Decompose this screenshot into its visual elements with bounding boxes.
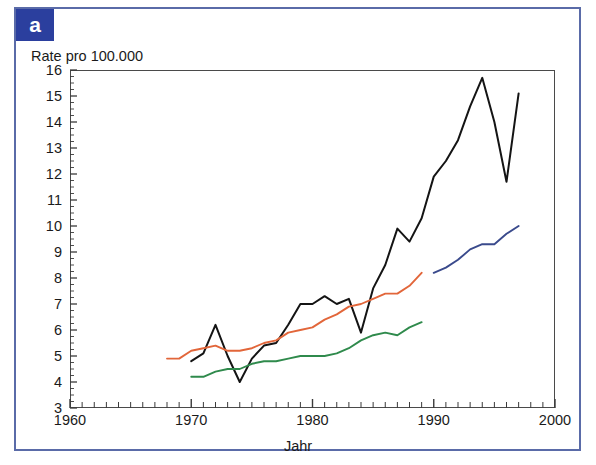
x-axis-tick-label: 1990: [418, 412, 450, 428]
y-axis-tick-label: 4: [28, 374, 62, 390]
y-axis-tick-label: 7: [28, 296, 62, 312]
plot-area: [70, 70, 555, 408]
y-axis-tick-label: 10: [28, 218, 62, 234]
y-axis-tick-label: 6: [28, 322, 62, 338]
x-axis-tick-label: 2000: [539, 412, 571, 428]
y-axis-tick-label: 8: [28, 270, 62, 286]
y-axis-tick-label: 5: [28, 348, 62, 364]
y-axis-tick-label: 9: [28, 244, 62, 260]
x-axis-tick-label: 1960: [54, 412, 86, 428]
x-axis-label: Jahr: [0, 438, 596, 454]
x-axis-tick-label: 1980: [296, 412, 328, 428]
figure-root: a Rate pro 100.000 345678910111213141516…: [0, 0, 596, 465]
y-axis-tick-label: 11: [28, 192, 62, 208]
y-axis-tick-label: 12: [28, 166, 62, 182]
panel-badge: a: [16, 9, 54, 41]
x-axis-tick-label: 1970: [175, 412, 207, 428]
y-axis-tick-label: 15: [28, 88, 62, 104]
y-axis-tick-label: 13: [28, 140, 62, 156]
y-axis-tick-label: 16: [28, 62, 62, 78]
y-axis-tick-label: 14: [28, 114, 62, 130]
